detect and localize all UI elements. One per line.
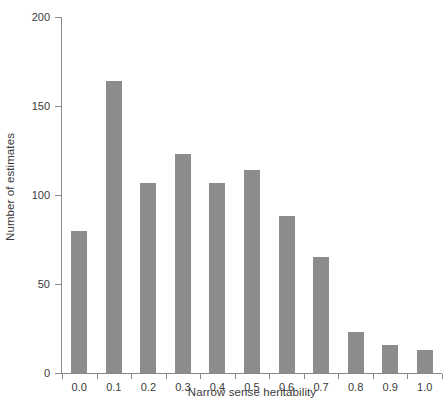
bar xyxy=(209,183,225,373)
x-tick-mark xyxy=(235,374,236,379)
x-tick-mark xyxy=(442,374,443,379)
x-tick-mark xyxy=(269,374,270,379)
y-axis-title-text: Number of estimates xyxy=(4,133,16,241)
y-tick-mark xyxy=(55,195,61,196)
y-tick-label: 150 xyxy=(0,100,50,112)
bar xyxy=(417,350,433,373)
bar xyxy=(175,154,191,373)
x-tick-mark xyxy=(200,374,201,379)
x-axis-line xyxy=(61,373,442,374)
x-tick-mark xyxy=(304,374,305,379)
x-tick-mark xyxy=(166,374,167,379)
y-tick-mark xyxy=(55,106,61,107)
bar xyxy=(348,332,364,373)
bar xyxy=(140,183,156,373)
bar xyxy=(106,81,122,373)
y-tick-label: 200 xyxy=(0,11,50,23)
x-tick-mark xyxy=(338,374,339,379)
x-tick-mark xyxy=(373,374,374,379)
histogram-figure: Number of estimates 050100150200 0.00.10… xyxy=(0,0,448,410)
y-tick-mark xyxy=(55,373,61,374)
bar xyxy=(313,257,329,373)
bar-series xyxy=(62,17,442,373)
y-axis-title: Number of estimates xyxy=(0,0,20,373)
y-tick-label: 100 xyxy=(0,189,50,201)
bar xyxy=(71,231,87,373)
x-axis-title: Narrow sense heritability xyxy=(62,386,442,398)
x-tick-mark xyxy=(407,374,408,379)
bar xyxy=(279,216,295,373)
x-tick-mark xyxy=(97,374,98,379)
y-tick-mark xyxy=(55,284,61,285)
y-tick-mark xyxy=(55,17,61,18)
y-tick-label: 0 xyxy=(0,367,50,379)
x-tick-mark xyxy=(62,374,63,379)
y-tick-label: 50 xyxy=(0,278,50,290)
bar xyxy=(244,170,260,373)
bar xyxy=(382,345,398,373)
x-tick-mark xyxy=(131,374,132,379)
